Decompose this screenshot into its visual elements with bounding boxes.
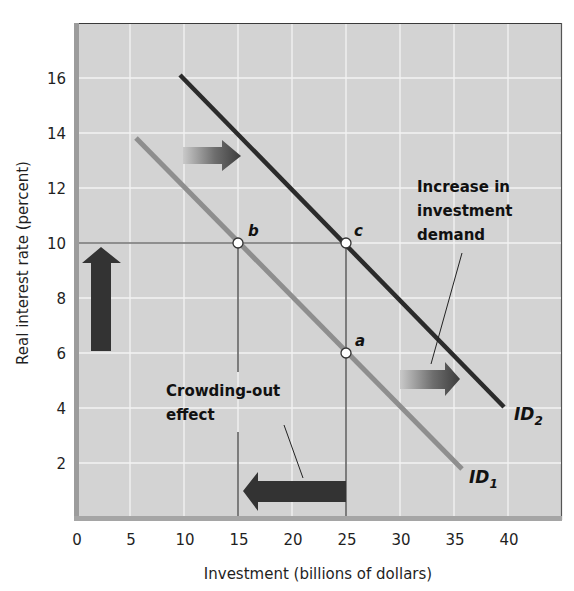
chart: b c a ID2 ID1 Increase in investment dem… (0, 0, 574, 591)
svg-text:8: 8 (56, 290, 66, 308)
svg-text:5: 5 (126, 531, 136, 549)
svg-text:investment: investment (417, 202, 513, 220)
svg-text:30: 30 (391, 531, 410, 549)
svg-text:35: 35 (445, 531, 464, 549)
x-axis-title: Investment (billions of dollars) (204, 565, 432, 583)
point-c (341, 238, 351, 248)
svg-text:16: 16 (47, 70, 66, 88)
plot-area (74, 23, 562, 521)
point-b (233, 238, 243, 248)
point-a (341, 348, 351, 358)
svg-text:Crowding-out: Crowding-out (166, 382, 280, 400)
svg-text:0: 0 (72, 531, 82, 549)
svg-text:12: 12 (47, 180, 66, 198)
svg-text:4: 4 (56, 400, 66, 418)
svg-text:10: 10 (175, 531, 194, 549)
svg-text:6: 6 (56, 345, 66, 363)
svg-text:Increase in: Increase in (417, 178, 510, 196)
svg-text:40: 40 (499, 531, 518, 549)
svg-text:15: 15 (229, 531, 248, 549)
svg-text:2: 2 (56, 455, 66, 473)
svg-text:demand: demand (417, 226, 485, 244)
svg-text:effect: effect (166, 406, 215, 424)
point-c-label: c (354, 222, 363, 240)
svg-text:14: 14 (47, 125, 66, 143)
x-axis-ticks: 0 5 10 15 20 25 30 35 40 (72, 531, 518, 549)
svg-text:10: 10 (47, 235, 66, 253)
point-b-label: b (248, 222, 259, 240)
point-a-label: a (355, 332, 365, 350)
svg-text:25: 25 (337, 531, 356, 549)
svg-text:20: 20 (283, 531, 302, 549)
y-axis-title: Real interest rate (percent) (14, 161, 32, 365)
y-axis-ticks: 2 4 6 8 10 12 14 16 (47, 70, 66, 473)
